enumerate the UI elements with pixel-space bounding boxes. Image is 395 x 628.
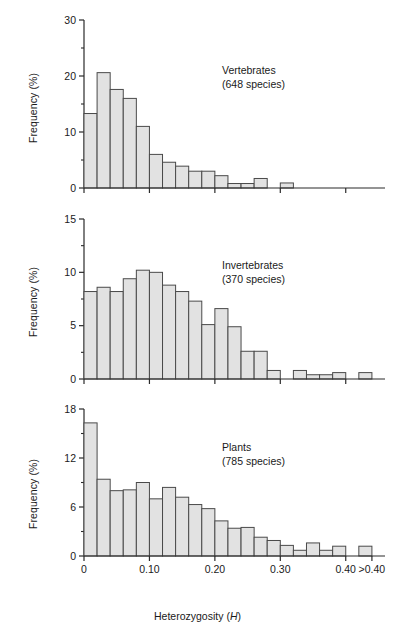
x-tick-label: 0.20: [205, 563, 226, 575]
x-tick-label: 0.30: [270, 563, 291, 575]
y-tick-label: 0: [70, 373, 76, 385]
y-tick-label: 30: [64, 14, 76, 26]
y-axis-label-invertebrates: Frequency (%): [27, 267, 39, 337]
histogram-bar: [84, 423, 97, 556]
histogram-plants: 06121800.100.200.300.40>0.40: [62, 403, 389, 588]
histogram-bar: [215, 176, 228, 188]
histogram-bar: [123, 490, 136, 556]
x-axis-title-text: Heterozygosity (: [154, 610, 230, 622]
x-tick-label: 0.10: [139, 563, 160, 575]
histogram-bar: [136, 126, 149, 188]
y-axis-label-plants: Frequency (%): [27, 459, 39, 529]
histogram-bar: [189, 171, 202, 188]
histogram-bar: [306, 375, 319, 379]
histogram-bar: [254, 537, 267, 556]
histogram-bar: [136, 483, 149, 557]
histogram-bar: [267, 540, 280, 556]
y-tick-label: 5: [70, 319, 76, 331]
histogram-bar: [254, 351, 267, 379]
histogram-bar: [97, 73, 110, 188]
histogram-bar: [215, 309, 228, 379]
histogram-bar: [320, 375, 333, 379]
y-tick-label: 15: [64, 213, 76, 225]
histogram-bar: [333, 373, 346, 379]
histogram-bar: [189, 505, 202, 556]
histogram-bar: [202, 325, 215, 379]
y-tick-label: 10: [64, 126, 76, 138]
histogram-bar: [254, 178, 267, 188]
x-axis-title: Heterozygosity (H): [0, 610, 395, 622]
histogram-bar: [202, 171, 215, 188]
panel-vertebrates: Frequency (%) 0102030 Vertebrates (648 s…: [0, 8, 395, 208]
histogram-bar: [97, 479, 110, 556]
histogram-bar: [241, 527, 254, 556]
y-tick-label: 12: [64, 452, 76, 464]
histogram-bar: [293, 370, 306, 379]
histogram-bar: [149, 499, 162, 556]
histogram-bar: [110, 89, 123, 188]
histogram-bar: [228, 327, 241, 379]
annotation-title-plants: Plants: [222, 441, 285, 455]
x-axis-title-close: ): [237, 610, 241, 622]
histogram-bar: [359, 373, 372, 379]
annotation-title-vertebrates: Vertebrates: [222, 64, 285, 78]
histogram-bar: [110, 491, 123, 556]
histogram-bar: [163, 487, 176, 556]
histogram-invertebrates: 051015: [62, 213, 389, 393]
annotation-vertebrates: Vertebrates (648 species): [222, 64, 285, 91]
histogram-bar: [267, 370, 280, 379]
histogram-bar: [84, 292, 97, 379]
histogram-bar: [228, 184, 241, 188]
histogram-bar: [149, 154, 162, 188]
histogram-bar: [333, 546, 346, 556]
annotation-plants: Plants (785 species): [222, 441, 285, 468]
y-axis-label-vertebrates: Frequency (%): [27, 73, 39, 143]
histogram-bar: [202, 509, 215, 556]
histogram-bar: [176, 497, 189, 556]
histogram-bar: [280, 545, 293, 556]
histogram-bar: [84, 114, 97, 188]
y-tick-label: 6: [70, 501, 76, 513]
histogram-bar: [149, 272, 162, 379]
annotation-subtitle-invertebrates: (370 species): [222, 273, 285, 287]
annotation-subtitle-plants: (785 species): [222, 455, 285, 469]
histogram-bar: [306, 543, 319, 556]
histogram-bar: [241, 351, 254, 379]
histogram-bar: [320, 550, 333, 556]
y-tick-label: 0: [70, 550, 76, 562]
histogram-bar: [97, 287, 110, 379]
histogram-bar: [123, 279, 136, 379]
panel-plants: Frequency (%) 06121800.100.200.300.40>0.…: [0, 397, 395, 628]
histogram-bar: [293, 550, 306, 556]
annotation-subtitle-vertebrates: (648 species): [222, 78, 285, 92]
histogram-bar: [110, 292, 123, 379]
histogram-bar: [280, 183, 293, 188]
histogram-bar: [123, 98, 136, 188]
plot-area-invertebrates: 051015: [62, 213, 389, 393]
plot-area-plants: 06121800.100.200.300.40>0.40: [62, 403, 389, 588]
histogram-bar: [176, 166, 189, 188]
x-tick-label: >0.40: [359, 563, 386, 575]
histogram-bar: [176, 292, 189, 379]
figure-heterozygosity-distributions: Frequency (%) 0102030 Vertebrates (648 s…: [0, 0, 395, 628]
y-tick-label: 10: [64, 266, 76, 278]
y-tick-label: 18: [64, 403, 76, 415]
annotation-invertebrates: Invertebrates (370 species): [222, 259, 285, 286]
histogram-bar: [241, 184, 254, 188]
histogram-bar: [163, 285, 176, 379]
histogram-bar: [189, 301, 202, 379]
x-tick-label: 0.40: [336, 563, 357, 575]
histogram-bar: [163, 162, 176, 188]
y-tick-label: 20: [64, 70, 76, 82]
plot-area-vertebrates: 0102030: [62, 14, 389, 202]
histogram-bar: [228, 528, 241, 556]
panel-invertebrates: Frequency (%) 051015 Invertebrates (370 …: [0, 207, 395, 397]
histogram-vertebrates: 0102030: [62, 14, 389, 202]
x-tick-label: 0: [81, 563, 87, 575]
histogram-bar: [136, 270, 149, 379]
histogram-bar: [359, 546, 372, 556]
annotation-title-invertebrates: Invertebrates: [222, 259, 285, 273]
histogram-bar: [215, 521, 228, 556]
y-tick-label: 0: [70, 182, 76, 194]
